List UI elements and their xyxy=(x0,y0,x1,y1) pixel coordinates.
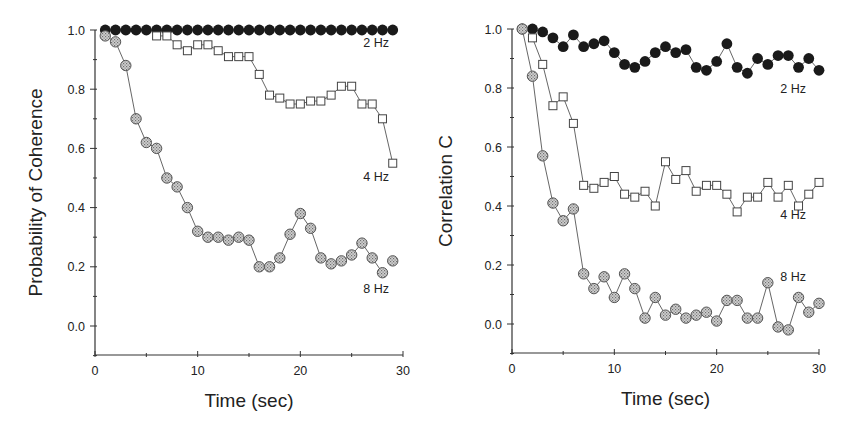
series-2-hz: 2 Hz xyxy=(100,25,398,50)
x-tick-label: 30 xyxy=(396,364,410,378)
data-point xyxy=(305,223,315,233)
left-series: 2 Hz4 Hz8 Hz xyxy=(100,25,398,296)
data-point xyxy=(722,38,733,49)
data-point xyxy=(254,262,264,272)
data-point xyxy=(588,38,599,49)
data-point xyxy=(276,94,284,102)
data-point xyxy=(783,325,793,335)
data-point xyxy=(367,25,378,36)
data-point xyxy=(110,37,120,47)
data-point xyxy=(589,283,599,293)
data-point xyxy=(517,24,527,34)
data-point xyxy=(377,25,388,36)
right-series: 2 Hz4 Hz8 Hz xyxy=(517,24,825,335)
data-point xyxy=(286,100,294,108)
data-point xyxy=(650,292,660,302)
data-point xyxy=(357,238,367,248)
data-point xyxy=(671,304,681,314)
x-tick-label: 30 xyxy=(812,362,826,376)
series-8-hz: 8 Hz xyxy=(517,24,824,335)
y-tick-label: 0.4 xyxy=(485,200,502,214)
chart-panel-right: 0.00.20.40.60.81.00102030 2 Hz4 Hz8 Hz T… xyxy=(435,23,826,410)
x-tick-label: 10 xyxy=(191,364,205,378)
data-point xyxy=(681,44,692,55)
data-point xyxy=(388,256,398,266)
series-2-hz: 2 Hz xyxy=(517,24,825,96)
data-point xyxy=(285,229,295,239)
data-point xyxy=(183,47,191,55)
data-point xyxy=(348,82,356,90)
data-point xyxy=(131,25,142,36)
series-label: 4 Hz xyxy=(363,170,389,184)
y-tick-label: 0.2 xyxy=(485,259,502,273)
right-x-axis-title: Time (sec) xyxy=(621,388,710,409)
series-4-hz: 4 Hz xyxy=(528,34,823,222)
data-point xyxy=(387,25,398,36)
data-point xyxy=(120,25,131,36)
data-point xyxy=(732,295,742,305)
data-point xyxy=(691,62,702,73)
figure-canvas: 0.00.20.40.60.81.00102030 2 Hz4 Hz8 Hz T… xyxy=(0,0,846,427)
data-point xyxy=(223,235,233,245)
data-point xyxy=(619,59,630,70)
data-point xyxy=(640,313,650,323)
data-point xyxy=(629,62,640,73)
data-point xyxy=(762,59,773,70)
data-point xyxy=(773,50,784,61)
y-tick-label: 0.6 xyxy=(68,142,85,156)
series-label: 8 Hz xyxy=(780,270,806,284)
data-point xyxy=(537,27,548,38)
data-point xyxy=(701,307,711,317)
data-point xyxy=(100,31,110,41)
data-point xyxy=(754,193,762,201)
data-point xyxy=(182,202,192,212)
figure: 0.00.20.40.60.81.00102030 2 Hz4 Hz8 Hz T… xyxy=(0,0,846,427)
right-y-axis-title: Correlation C xyxy=(435,135,456,247)
data-point xyxy=(245,53,253,61)
data-point xyxy=(764,178,772,186)
data-point xyxy=(203,25,214,36)
x-tick-label: 20 xyxy=(293,364,307,378)
data-point xyxy=(609,47,620,58)
data-point xyxy=(580,181,588,189)
data-point xyxy=(131,114,141,124)
data-point xyxy=(336,256,346,266)
data-point xyxy=(244,25,255,36)
data-point xyxy=(317,97,325,105)
data-point xyxy=(662,158,670,166)
data-point xyxy=(233,25,244,36)
data-point xyxy=(752,313,762,323)
y-tick-label: 0.2 xyxy=(68,260,85,274)
data-point xyxy=(316,253,326,263)
data-point xyxy=(559,93,567,101)
data-point xyxy=(527,24,538,35)
data-point xyxy=(377,268,387,278)
left-y-axis-title: Probability of Coherence xyxy=(25,88,46,296)
data-point xyxy=(110,25,121,36)
data-point xyxy=(192,226,202,236)
data-point xyxy=(692,187,700,195)
data-point xyxy=(631,193,639,201)
data-point xyxy=(682,167,690,175)
y-tick-label: 0.8 xyxy=(485,82,502,96)
series-label: 2 Hz xyxy=(780,82,806,96)
data-point xyxy=(549,102,557,110)
data-point xyxy=(722,295,732,305)
data-point xyxy=(224,53,232,61)
series-4-hz: 4 Hz xyxy=(153,32,397,184)
data-point xyxy=(630,283,640,293)
data-point xyxy=(315,25,326,36)
y-tick-label: 1.0 xyxy=(485,23,502,37)
data-point xyxy=(295,208,305,218)
data-point xyxy=(670,47,681,58)
data-point xyxy=(254,25,265,36)
series-8-hz: 8 Hz xyxy=(100,31,398,296)
x-tick-label: 10 xyxy=(607,362,621,376)
data-point xyxy=(327,91,335,99)
y-tick-label: 0.6 xyxy=(485,141,502,155)
series-label: 4 Hz xyxy=(780,208,806,222)
data-point xyxy=(651,202,659,210)
data-point xyxy=(619,269,629,279)
data-point xyxy=(805,190,813,198)
data-point xyxy=(264,262,274,272)
